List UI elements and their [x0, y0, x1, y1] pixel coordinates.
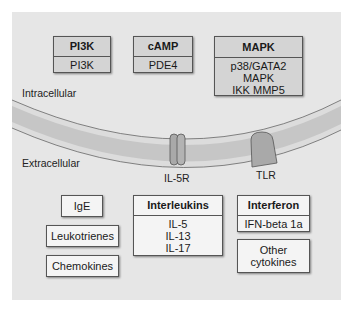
tlr-label: TLR [256, 169, 276, 181]
extracellular-label: Extracellular [22, 157, 80, 169]
pi3k-box: PI3K PI3K [53, 36, 111, 73]
chemokines-box: Chemokines [46, 255, 119, 277]
leukotrienes-label: Leukotrienes [51, 230, 114, 242]
other-cytokines-line2: cytokines [251, 256, 297, 268]
interferon-item: IFN-beta 1a [238, 216, 309, 230]
mapk-item: IKK MMP5 [215, 84, 302, 96]
intracellular-label: Intracellular [22, 87, 76, 99]
interleukin-item: IL-13 [134, 230, 222, 242]
pi3k-title: PI3K [54, 37, 110, 57]
mapk-title: MAPK [215, 37, 302, 58]
leukotrienes-box: Leukotrienes [46, 225, 119, 247]
mapk-item: MAPK [215, 72, 302, 84]
ige-label: IgE [74, 200, 91, 212]
interferon-title: Interferon [238, 196, 309, 216]
il5r-label: IL-5R [164, 172, 190, 184]
chemokines-label: Chemokines [52, 260, 113, 272]
il5r-receptor-icon [170, 134, 185, 165]
interleukins-title: Interleukins [134, 196, 222, 216]
ige-box: IgE [61, 195, 103, 217]
interferon-box: Interferon IFN-beta 1a [237, 195, 310, 232]
camp-title: cAMP [134, 37, 192, 57]
mapk-box: MAPK p38/GATA2 MAPK IKK MMP5 [214, 36, 303, 96]
camp-box: cAMP PDE4 [133, 36, 193, 73]
other-cytokines-line1: Other [260, 244, 288, 256]
interleukin-item: IL-5 [134, 218, 222, 230]
interleukins-box: Interleukins IL-5 IL-13 IL-17 [133, 195, 223, 256]
mapk-item: p38/GATA2 [215, 60, 302, 72]
interleukin-item: IL-17 [134, 242, 222, 254]
other-cytokines-box: Other cytokines [237, 239, 310, 273]
pde4-item: PDE4 [134, 57, 192, 71]
pi3k-item: PI3K [54, 57, 110, 71]
